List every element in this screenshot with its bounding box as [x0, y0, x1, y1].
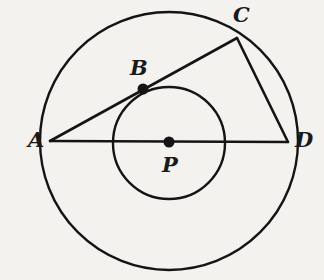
- geometry-canvas: [0, 0, 324, 280]
- point-p-dot: [164, 137, 175, 148]
- point-label-a: A: [28, 129, 44, 150]
- point-label-d: D: [295, 129, 313, 150]
- point-b-dot: [138, 84, 149, 95]
- point-label-c: C: [233, 4, 250, 25]
- geometry-diagram: A B C D P: [0, 0, 324, 280]
- point-label-p: P: [162, 154, 178, 175]
- point-label-b: B: [130, 57, 148, 78]
